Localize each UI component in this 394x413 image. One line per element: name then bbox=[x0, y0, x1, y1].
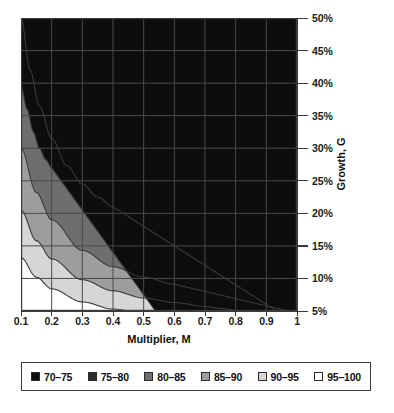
y-tick-mark bbox=[297, 148, 308, 149]
y-tick-mark bbox=[297, 311, 308, 312]
y-tick-mark bbox=[297, 180, 308, 181]
x-tick-label: 0.7 bbox=[198, 315, 212, 327]
contour-chart-figure: 0.10.20.30.40.50.60.70.80.91 5%10%15%20%… bbox=[0, 0, 394, 413]
y-tick-label: 35% bbox=[312, 110, 333, 122]
y-tick-label: 45% bbox=[312, 45, 333, 57]
plot-area bbox=[21, 18, 297, 311]
chart-legend: 70–7575–8080–8585–9090–9595–100 bbox=[21, 362, 371, 391]
y-tick-mark bbox=[297, 278, 308, 279]
x-tick-label: 0.3 bbox=[75, 315, 89, 327]
x-tick-label: 0.6 bbox=[167, 315, 181, 327]
legend-label: 80–85 bbox=[157, 371, 185, 383]
y-axis-line bbox=[297, 18, 298, 311]
x-tick-label: 0.1 bbox=[14, 315, 28, 327]
x-tick-label: 1 bbox=[294, 315, 300, 327]
contour-fill-group bbox=[21, 18, 297, 311]
y-tick-label: 5% bbox=[312, 305, 327, 317]
legend-item-90-95[interactable]: 90–95 bbox=[258, 371, 299, 383]
y-tick-label: 30% bbox=[312, 142, 333, 154]
y-tick-mark bbox=[297, 83, 308, 84]
plot-svg bbox=[21, 18, 297, 311]
y-tick-label: 50% bbox=[312, 12, 333, 24]
x-tick-label: 0.4 bbox=[106, 315, 120, 327]
y-tick-mark bbox=[297, 115, 308, 116]
legend-label: 75–80 bbox=[101, 371, 129, 383]
legend-swatch-icon bbox=[88, 372, 97, 381]
y-tick-mark bbox=[297, 18, 308, 19]
legend-swatch-icon bbox=[31, 372, 40, 381]
y-tick-label: 25% bbox=[312, 175, 333, 187]
y-tick-mark bbox=[297, 50, 308, 51]
legend-swatch-icon bbox=[314, 372, 323, 381]
legend-label: 85–90 bbox=[214, 371, 242, 383]
x-tick-label: 0.2 bbox=[45, 315, 59, 327]
legend-label: 70–75 bbox=[44, 371, 72, 383]
legend-item-75-80[interactable]: 75–80 bbox=[88, 371, 129, 383]
x-axis-title: Multiplier, M bbox=[21, 333, 297, 345]
x-tick-label: 0.5 bbox=[137, 315, 151, 327]
x-tick-label: 0.8 bbox=[229, 315, 243, 327]
legend-swatch-icon bbox=[258, 372, 267, 381]
legend-swatch-icon bbox=[201, 372, 210, 381]
legend-item-95-100[interactable]: 95–100 bbox=[314, 371, 361, 383]
y-tick-label: 20% bbox=[312, 207, 333, 219]
y-axis-title: Growth, G bbox=[335, 137, 347, 190]
legend-item-80-85[interactable]: 80–85 bbox=[144, 371, 185, 383]
y-tick-mark bbox=[297, 213, 308, 214]
y-tick-label: 40% bbox=[312, 77, 333, 89]
x-axis-line bbox=[21, 311, 297, 312]
y-tick-mark bbox=[297, 245, 308, 246]
legend-label: 90–95 bbox=[271, 371, 299, 383]
y-tick-label: 10% bbox=[312, 272, 333, 284]
legend-item-85-90[interactable]: 85–90 bbox=[201, 371, 242, 383]
x-tick-label: 0.9 bbox=[259, 315, 273, 327]
y-tick-label: 15% bbox=[312, 240, 333, 252]
legend-swatch-icon bbox=[144, 372, 153, 381]
legend-label: 95–100 bbox=[327, 371, 361, 383]
legend-item-70-75[interactable]: 70–75 bbox=[31, 371, 72, 383]
